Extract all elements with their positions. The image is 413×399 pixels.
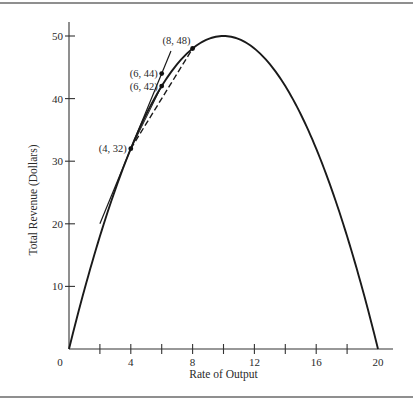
series-secant-4-32-6-42 [131, 86, 162, 149]
y-tick-label: 50 [52, 30, 64, 42]
x-tick-label: 4 [128, 356, 134, 368]
data-point [190, 46, 195, 51]
data-point [128, 146, 133, 151]
point-label: (6, 44) [130, 68, 158, 80]
data-point [159, 71, 164, 76]
point-label: (6, 42) [130, 81, 158, 93]
x-tick-label: 20 [373, 356, 385, 368]
x-tick-label: 8 [190, 356, 196, 368]
data-point [159, 84, 164, 89]
y-tick-label: 40 [52, 93, 64, 105]
series-secant-4-32-8-48 [131, 49, 193, 149]
x-tick-label: 0 [57, 356, 63, 368]
point-label: (8, 48) [163, 35, 191, 47]
y-tick-label: 20 [52, 218, 64, 230]
point-label: (4, 32) [99, 143, 127, 155]
y-ticks [65, 36, 75, 286]
y-tick-label: 30 [52, 155, 64, 167]
x-tick-label: 12 [249, 356, 260, 368]
series-total-revenue [69, 36, 378, 349]
x-tick-label: 16 [311, 356, 323, 368]
total-revenue-chart: 048121620 1020304050 Rate of Output Tota… [0, 0, 413, 399]
x-tick-labels: 048121620 [57, 356, 384, 368]
annotation-labels: (4, 32)(6, 42)(6, 44)(8, 48) [99, 35, 191, 156]
y-tick-labels: 1020304050 [52, 30, 64, 292]
series-layer [69, 36, 378, 349]
y-axis-title: Total Revenue (Dollars) [27, 144, 40, 255]
x-axis-title: Rate of Output [189, 368, 258, 381]
y-tick-label: 10 [52, 280, 64, 292]
